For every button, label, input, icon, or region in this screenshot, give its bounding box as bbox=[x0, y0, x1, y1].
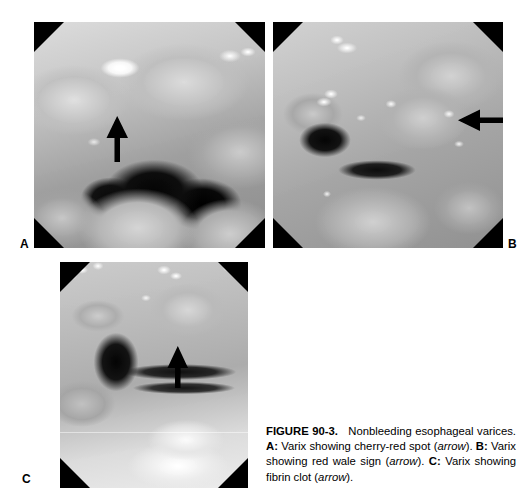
vignette-corner-bottom-right-icon bbox=[235, 218, 265, 248]
vignette-corner-bottom-left-icon bbox=[273, 218, 303, 248]
endoscopy-image-panel-a bbox=[34, 22, 265, 248]
caption-panel-a-italic: arrow bbox=[437, 440, 465, 452]
caption-panel-b-letter: B: bbox=[476, 440, 488, 452]
endoscopy-image-panel-b bbox=[273, 22, 503, 248]
vignette-corner-top-right-icon bbox=[218, 262, 248, 292]
caption-panel-c-letter: C: bbox=[429, 455, 441, 467]
panel-b-mucosa bbox=[273, 22, 503, 248]
figure-caption: FIGURE 90-3. Nonbleeding esophageal vari… bbox=[266, 424, 516, 485]
figure-label: FIGURE 90-3. bbox=[266, 425, 338, 437]
panel-letter-a: A bbox=[20, 238, 29, 250]
caption-panel-b-text-after: ). bbox=[418, 455, 425, 467]
vignette-corner-bottom-right-icon bbox=[218, 458, 248, 488]
panel-letter-c: C bbox=[22, 473, 31, 485]
vignette-corner-top-right-icon bbox=[473, 22, 503, 52]
caption-panel-a-letter: A: bbox=[266, 440, 278, 452]
caption-panel-c-italic: arrow bbox=[318, 471, 346, 483]
vignette-corner-top-right-icon bbox=[235, 22, 265, 52]
panel-a-mucosa bbox=[34, 22, 265, 248]
panel-letter-b: B bbox=[508, 238, 517, 250]
panel-c-scan-seam bbox=[60, 432, 248, 433]
figure-title: Nonbleeding esophageal varices. bbox=[348, 425, 516, 437]
vignette-corner-bottom-right-icon bbox=[473, 218, 503, 248]
panel-c-mucosa bbox=[60, 262, 248, 488]
vignette-corner-top-left-icon bbox=[273, 22, 303, 52]
caption-panel-b-italic: arrow bbox=[389, 455, 417, 467]
vignette-corner-bottom-left-icon bbox=[34, 218, 64, 248]
figure-90-3: A B C FIGURE 90-3. Nonbl bbox=[0, 0, 529, 498]
caption-panel-a-text-after: ). bbox=[466, 440, 473, 452]
vignette-corner-top-left-icon bbox=[34, 22, 64, 52]
endoscopy-image-panel-c bbox=[60, 262, 248, 488]
vignette-corner-bottom-left-icon bbox=[60, 458, 90, 488]
caption-panel-a-text-before: Varix showing cherry-red spot ( bbox=[278, 440, 437, 452]
caption-panel-a: A: Varix showing cherry-red spot (arrow)… bbox=[266, 440, 473, 452]
vignette-corner-top-left-icon bbox=[60, 262, 90, 292]
caption-gap bbox=[338, 425, 348, 437]
caption-panel-c-text-after: ). bbox=[346, 471, 353, 483]
